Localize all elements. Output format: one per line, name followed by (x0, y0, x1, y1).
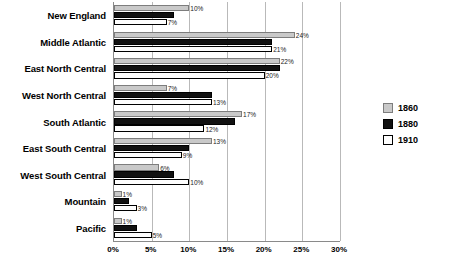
bar-group: 13%9% (114, 138, 340, 158)
legend-label-1860: 1860 (398, 103, 418, 113)
bar-row: 10% (114, 5, 340, 11)
x-tick-30%: 30% (331, 245, 347, 254)
bar-1880-east-south-central (114, 145, 189, 151)
bar-row (114, 92, 340, 98)
bar-1880-west-north-central (114, 92, 212, 98)
bar-row: 12% (114, 125, 340, 131)
bar-1880-middle-atlantic (114, 39, 272, 45)
bar-1910-south-atlantic (114, 125, 204, 131)
legend-item-1860: 1860 (383, 100, 418, 115)
category-label-east-north-central: East North Central (24, 63, 106, 74)
bar-group: 17%12% (114, 111, 340, 131)
bar-row: 13% (114, 138, 340, 144)
bar-1860-east-north-central (114, 58, 280, 64)
category-axis-labels: New EnglandMiddle AtlanticEast North Cen… (0, 0, 110, 241)
bar-value-label: 7% (167, 84, 177, 91)
bar-row (114, 171, 340, 177)
bar-row (114, 145, 340, 151)
bar-1910-east-north-central (114, 72, 265, 78)
chart-legend: 186018801910 (383, 100, 418, 148)
bar-row: 20% (114, 72, 340, 78)
bar-1860-mountain (114, 191, 122, 197)
x-tick-20%: 20% (256, 245, 272, 254)
bar-1860-west-south-central (114, 164, 159, 170)
bar-group: 1%5% (114, 218, 340, 238)
bar-value-label: 6% (159, 164, 169, 171)
category-label-pacific: Pacific (76, 222, 106, 233)
category-label-mountain: Mountain (65, 196, 106, 207)
bar-value-label: 1% (122, 217, 132, 224)
bar-value-label: 9% (182, 152, 192, 159)
legend-swatch-1910 (383, 135, 393, 145)
bar-value-label: 24% (295, 31, 309, 38)
legend-swatch-1860 (383, 103, 393, 113)
bar-1880-east-north-central (114, 65, 280, 71)
bar-row: 17% (114, 111, 340, 117)
bar-1860-south-atlantic (114, 111, 242, 117)
bar-chart: New EnglandMiddle AtlanticEast North Cen… (0, 0, 452, 275)
bar-value-label: 20% (265, 72, 279, 79)
category-label-new-england: New England (47, 10, 106, 21)
bar-row: 13% (114, 99, 340, 105)
bar-value-label: 12% (204, 125, 218, 132)
bar-row: 22% (114, 58, 340, 64)
bar-1910-east-south-central (114, 152, 182, 158)
bar-row (114, 198, 340, 204)
bar-row: 1% (114, 218, 340, 224)
bar-1880-south-atlantic (114, 118, 235, 124)
x-tick-10%: 10% (180, 245, 196, 254)
category-label-west-north-central: West North Central (22, 89, 106, 100)
bar-1880-pacific (114, 225, 137, 231)
bar-row: 3% (114, 205, 340, 211)
bar-1910-pacific (114, 232, 152, 238)
bar-row: 9% (114, 152, 340, 158)
bar-row: 6% (114, 164, 340, 170)
bar-1910-mountain (114, 205, 137, 211)
bar-row (114, 118, 340, 124)
bar-1860-new-england (114, 5, 189, 11)
bar-1860-middle-atlantic (114, 32, 295, 38)
bar-value-label: 17% (242, 111, 256, 118)
legend-label-1910: 1910 (398, 135, 418, 145)
bar-group: 1%3% (114, 191, 340, 211)
plot-area: 10%7%24%21%22%20%7%13%17%12%13%9%6%10%1%… (113, 2, 340, 242)
bar-1860-west-north-central (114, 85, 167, 91)
legend-item-1880: 1880 (383, 116, 418, 131)
bar-value-label: 10% (189, 178, 203, 185)
gridline-30% (340, 2, 341, 241)
bar-row: 21% (114, 46, 340, 52)
bar-1860-east-south-central (114, 138, 212, 144)
bar-1880-mountain (114, 198, 129, 204)
bar-1910-west-north-central (114, 99, 212, 105)
bar-1910-middle-atlantic (114, 46, 272, 52)
bar-value-label: 10% (189, 5, 203, 12)
bar-row: 5% (114, 232, 340, 238)
bar-value-label: 3% (137, 205, 147, 212)
category-label-south-atlantic: South Atlantic (43, 116, 106, 127)
bar-row (114, 225, 340, 231)
bar-1860-pacific (114, 218, 122, 224)
category-label-west-south-central: West South Central (20, 169, 106, 180)
bar-row: 7% (114, 19, 340, 25)
bar-value-label: 22% (280, 58, 294, 65)
bar-row: 7% (114, 85, 340, 91)
bar-row (114, 39, 340, 45)
bar-row (114, 65, 340, 71)
bar-value-label: 1% (122, 191, 132, 198)
bar-group: 24%21% (114, 32, 340, 52)
bar-row: 10% (114, 179, 340, 185)
legend-label-1880: 1880 (398, 119, 418, 129)
category-label-middle-atlantic: Middle Atlantic (40, 36, 106, 47)
x-tick-5%: 5% (145, 245, 157, 254)
category-label-east-south-central: East South Central (23, 143, 106, 154)
legend-item-1910: 1910 (383, 132, 418, 147)
bar-value-label: 13% (212, 98, 226, 105)
bar-1880-west-south-central (114, 171, 174, 177)
x-tick-15%: 15% (218, 245, 234, 254)
bar-group: 6%10% (114, 164, 340, 184)
bar-row: 1% (114, 191, 340, 197)
bar-1910-new-england (114, 19, 167, 25)
bar-row: 24% (114, 32, 340, 38)
bar-value-label: 7% (167, 19, 177, 26)
bar-group: 10%7% (114, 5, 340, 25)
